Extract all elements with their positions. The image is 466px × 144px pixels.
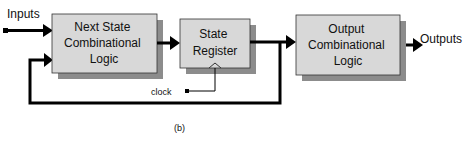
inputs-arrowhead-icon	[43, 24, 53, 37]
next-state-line-1: Next State	[74, 20, 130, 34]
output-logic-line-1: Output	[328, 22, 365, 36]
output-logic-line-3: Logic	[334, 54, 363, 68]
inputs-label: Inputs	[7, 7, 40, 21]
clock-terminal-icon	[185, 89, 189, 93]
clock-label: clock	[151, 87, 172, 97]
outputs-label: Outputs	[420, 32, 462, 46]
state-register-line-1: State	[199, 27, 227, 41]
output-logic-line-2: Combinational	[308, 38, 385, 52]
figure-caption: (b)	[174, 123, 185, 133]
next-state-line-3: Logic	[90, 52, 119, 66]
register-input-arrowhead-icon	[170, 36, 180, 50]
output-block-arrowhead-icon	[286, 35, 296, 49]
state-register-line-2: Register	[193, 44, 238, 58]
next-state-line-2: Combinational	[64, 36, 141, 50]
state-machine-diagram: Inputs Next State Combinational Logic St…	[0, 0, 466, 144]
